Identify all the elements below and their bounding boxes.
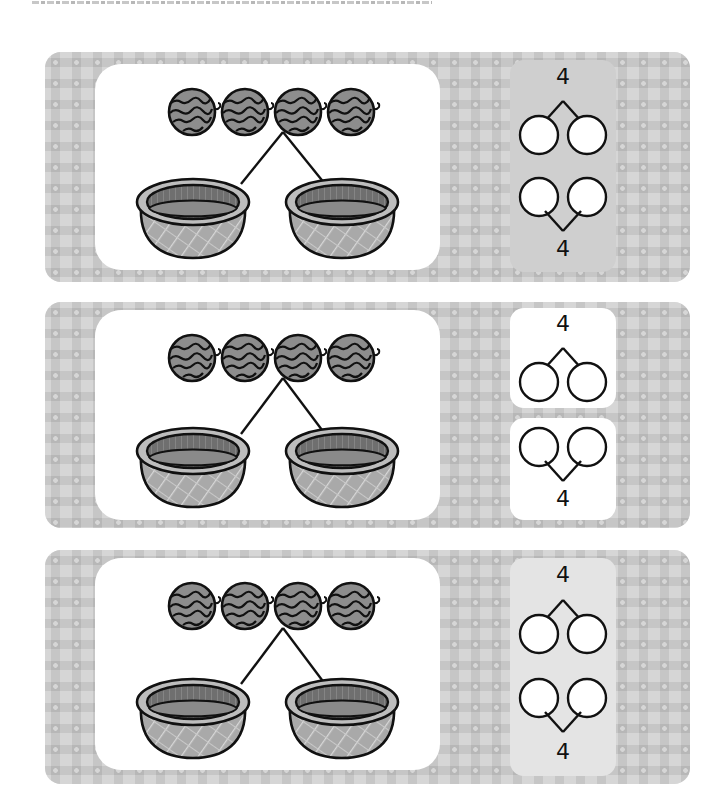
number-bond-bottom (520, 178, 606, 231)
watermelon-icon (222, 335, 273, 381)
watermelon-icon (275, 583, 326, 629)
bond-bottom-whole: 4 (548, 488, 578, 510)
bond-top-whole: 4 (548, 564, 578, 586)
number-bond-top (520, 348, 606, 401)
picture-card (95, 64, 440, 270)
split-illustration (95, 310, 440, 520)
watermelon-icon (222, 89, 273, 135)
watermelon-row (169, 335, 379, 381)
basket-icon-right (286, 179, 398, 258)
split-line-right (283, 378, 325, 434)
split-illustration (95, 558, 440, 770)
exercise-panel-2: 4 4 (45, 302, 690, 528)
basket-icon-left (137, 179, 249, 258)
split-illustration (95, 64, 440, 270)
number-bond-top (520, 600, 606, 653)
watermelon-icon (169, 89, 220, 135)
watermelon-icon (275, 335, 326, 381)
split-line-right (283, 132, 325, 184)
basket-icon-right (286, 428, 398, 507)
number-bond-top (520, 101, 606, 154)
number-bond-box: 4 4 (510, 308, 616, 520)
watermelon-row (169, 89, 379, 135)
bond-top-whole: 4 (548, 66, 578, 88)
watermelon-icon (169, 335, 220, 381)
watermelon-row (169, 583, 379, 629)
instruction-text-fragment (32, 1, 432, 4)
bond-bottom-whole: 4 (548, 741, 578, 763)
split-line-left (241, 378, 283, 434)
number-bond-bottom (520, 679, 606, 732)
split-line-right (283, 628, 325, 684)
basket-icon-left (137, 428, 249, 507)
number-bond-box: 4 4 (510, 60, 616, 272)
bond-bottom-whole: 4 (548, 238, 578, 260)
split-line-left (241, 628, 283, 684)
exercise-panel-3: 4 4 (45, 550, 690, 784)
bond-top-whole: 4 (548, 313, 578, 335)
basket-icon-left (137, 679, 249, 758)
watermelon-icon (328, 89, 379, 135)
number-bond-bottom (520, 428, 606, 481)
number-bond-box: 4 4 (510, 558, 616, 776)
watermelon-icon (328, 335, 379, 381)
exercise-panel-1: 4 4 (45, 52, 690, 282)
watermelon-icon (275, 89, 326, 135)
watermelon-icon (328, 583, 379, 629)
watermelon-icon (222, 583, 273, 629)
basket-icon-right (286, 679, 398, 758)
picture-card (95, 558, 440, 770)
watermelon-icon (169, 583, 220, 629)
split-line-left (241, 132, 283, 184)
instruction-text-clipped (32, 0, 432, 5)
picture-card (95, 310, 440, 520)
